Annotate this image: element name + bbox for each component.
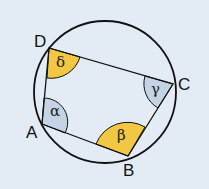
angle-label-alpha: α xyxy=(50,104,60,119)
vertex-label-b: B xyxy=(123,162,134,179)
vertex-label-d: D xyxy=(34,33,46,50)
angle-label-delta: δ xyxy=(56,55,65,70)
vertex-label-a: A xyxy=(26,124,37,141)
diagram-canvas: A B C D α β γ δ xyxy=(0,0,209,189)
angle-label-beta: β xyxy=(117,128,126,143)
vertex-label-c: C xyxy=(178,76,190,93)
angle-label-gamma: γ xyxy=(151,82,160,97)
diagram-svg xyxy=(0,0,209,189)
